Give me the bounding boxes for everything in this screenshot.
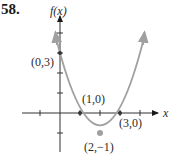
label-3-0: (3,0) [119, 116, 142, 130]
y-axis-label: f(x) [50, 4, 67, 18]
point-3-0 [118, 111, 122, 115]
point-1-0 [78, 111, 82, 115]
vertex-point [97, 130, 103, 136]
label-1-0: (1,0) [82, 92, 105, 106]
point-0-3 [58, 51, 62, 55]
function-graph: f(x) x (0,3) (1,0) (3,0) (2,−1) [0, 0, 174, 159]
label-0-3: (0,3) [31, 55, 54, 69]
x-axis-label: x [162, 106, 169, 120]
label-vertex: (2,−1) [84, 140, 114, 154]
